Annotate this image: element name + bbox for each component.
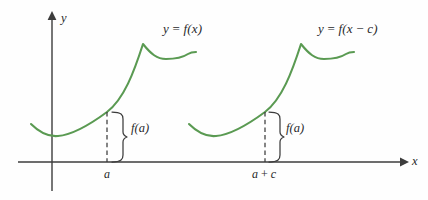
curve-translated-function	[189, 44, 354, 136]
tick-label-a: a	[104, 168, 110, 180]
graph-translation-figure: y x y = f(x) y = f(x − c) a a + c f(a) f…	[0, 0, 428, 200]
y-axis-arrowhead	[48, 11, 57, 20]
x-axis-arrowhead	[400, 158, 409, 167]
curve-original-function	[31, 44, 196, 136]
brace-height-a	[112, 112, 127, 162]
height-label-f-of-a-original: f(a)	[131, 122, 149, 135]
x-axis-label: x	[412, 155, 418, 168]
tick-label-a-plus-c: a + c	[252, 168, 276, 180]
height-label-f-of-a-translated: f(a)	[286, 122, 304, 135]
brace-height-a-plus-c	[269, 112, 284, 162]
y-axis-label: y	[61, 12, 67, 25]
equation-label-translated: y = f(x − c)	[318, 22, 378, 35]
equation-label-original: y = f(x)	[163, 22, 202, 35]
